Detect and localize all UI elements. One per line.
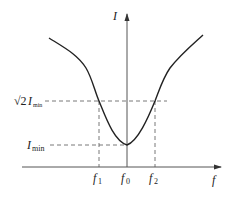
guide-lines [45, 101, 167, 167]
tick-f2: f 2 [149, 171, 158, 186]
imin-label: I min [26, 138, 44, 153]
sqrt2-imin-label: √2 I min [14, 94, 42, 108]
tick-f1: f 1 [93, 171, 102, 186]
sqrt2-subscript: min [33, 102, 42, 108]
svg-text:1: 1 [98, 177, 102, 186]
imin-subscript: min [32, 144, 44, 153]
x-axis-label: f [212, 173, 217, 187]
svg-text:2: 2 [154, 177, 158, 186]
tick-f0: f 0 [121, 171, 130, 186]
svg-text:0: 0 [126, 177, 130, 186]
resonance-diagram: I f √2 I min I min f 1 f 0 f 2 [0, 0, 234, 198]
y-axis-label: I [112, 9, 118, 23]
sqrt2-prefix: √2 [14, 94, 27, 108]
current-curve [49, 35, 203, 145]
